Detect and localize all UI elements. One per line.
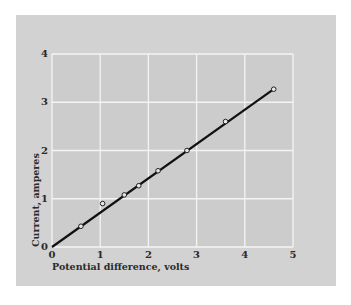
data-point-marker bbox=[271, 87, 276, 92]
y-tick-label: 2 bbox=[41, 145, 48, 156]
data-point-marker bbox=[122, 193, 127, 198]
data-point-marker bbox=[136, 183, 141, 188]
x-tick-label: 3 bbox=[193, 249, 200, 260]
data-point-marker bbox=[100, 201, 105, 206]
data-point-marker bbox=[79, 224, 84, 229]
y-tick-label: 4 bbox=[41, 48, 48, 59]
y-tick-label: 0 bbox=[41, 241, 48, 252]
chart-plot: 01234501234 Potential difference, volts … bbox=[0, 0, 351, 305]
x-tick-label: 2 bbox=[145, 249, 152, 260]
x-tick-label: 0 bbox=[49, 249, 56, 260]
x-axis-label: Potential difference, volts bbox=[52, 261, 189, 273]
x-tick-label: 4 bbox=[241, 249, 248, 260]
x-tick-label: 5 bbox=[290, 249, 297, 260]
y-axis-label: Current, amperes bbox=[30, 153, 42, 247]
data-point-marker bbox=[185, 148, 190, 153]
y-tick-label: 3 bbox=[41, 96, 48, 107]
data-point-marker bbox=[223, 119, 228, 124]
data-point-marker bbox=[156, 168, 161, 173]
x-tick-label: 1 bbox=[97, 249, 104, 260]
y-tick-label: 1 bbox=[41, 193, 48, 204]
